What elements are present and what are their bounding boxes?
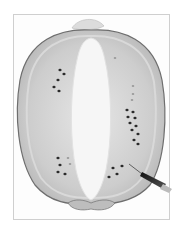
- kiwi-drawing: [0, 0, 182, 231]
- stem-top: [72, 19, 104, 29]
- kiwi-core: [71, 38, 110, 200]
